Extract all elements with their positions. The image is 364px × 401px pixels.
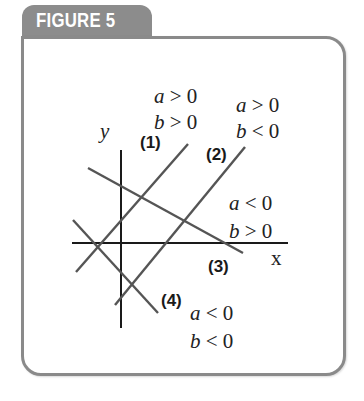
line-3 [88,168,243,253]
line-1 [76,144,188,272]
line-1-label: (1) [140,133,161,152]
line-3-a-condition: a < 0 [229,191,272,215]
line-3-b-condition: b > 0 [229,219,272,243]
x-axis-label: x [271,246,282,270]
line-2-a-condition: a > 0 [236,93,279,117]
line-1-b-condition: b > 0 [154,110,197,134]
line-1-a-condition: a > 0 [154,84,197,108]
line-3-conditions: a < 0 b > 0 [229,191,272,243]
line-4-a-condition: a < 0 [190,301,233,325]
line-4-conditions: a < 0 b < 0 [190,301,233,353]
line-4-b-condition: b < 0 [190,329,233,353]
y-axis-label: y [98,119,110,143]
line-2-label: (2) [206,145,227,164]
line-2 [115,147,245,305]
line-3-label: (3) [208,257,229,276]
diagram-canvas: y x (1) (2) (3) (4) a > 0 b > 0 a > 0 b … [0,0,364,401]
line-4-label: (4) [161,291,182,310]
line-2-conditions: a > 0 b < 0 [236,93,279,143]
line-2-b-condition: b < 0 [236,119,279,143]
line-1-conditions: a > 0 b > 0 [154,84,197,134]
